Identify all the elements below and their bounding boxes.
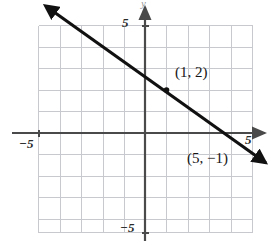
- point-marker-1-2: [164, 87, 170, 93]
- x-axis-tick-label-positive: 5: [245, 132, 252, 148]
- point-label-5-neg1: (5, −1): [187, 150, 228, 167]
- x-axis-tick-label-negative: −5: [19, 136, 33, 152]
- plotted-line: [54, 12, 266, 163]
- y-axis-name-label: y: [141, 0, 146, 9]
- graph-canvas: [0, 0, 276, 250]
- y-axis-tick-label-positive: 5: [122, 15, 129, 31]
- point-label-1-2: (1, 2): [175, 64, 208, 81]
- y-axis-tick-label-negative: −5: [120, 220, 134, 236]
- coordinate-plane-figure: 5 −5 −5 5 (1, 2) (5, −1) y: [0, 0, 276, 250]
